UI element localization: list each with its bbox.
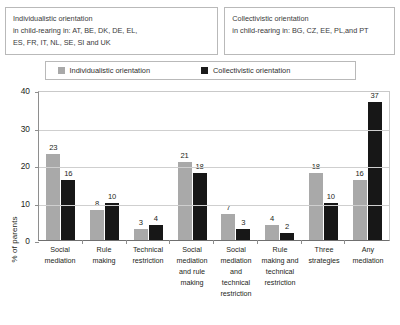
x-axis-label-line: technical xyxy=(215,278,257,289)
x-axis-tick-mark xyxy=(169,240,170,244)
bar-group: 73 xyxy=(214,92,258,240)
bar[interactable]: 16 xyxy=(61,180,75,240)
plot-area: 2316810342118734218101637 xyxy=(38,91,390,241)
x-axis-tick-mark xyxy=(257,240,258,244)
x-axis-label-line: making and xyxy=(259,256,301,267)
bar[interactable]: 3 xyxy=(236,229,250,240)
bar-group: 1637 xyxy=(345,92,389,240)
y-axis-tick-label: 30 xyxy=(8,124,30,134)
bar[interactable]: 7 xyxy=(221,214,235,240)
bar-group: 1810 xyxy=(302,92,346,240)
bar[interactable]: 21 xyxy=(178,162,192,241)
y-axis-ticks: 010203040 xyxy=(8,83,30,303)
x-axis-tick-mark xyxy=(213,240,214,244)
bar-value-label: 21 xyxy=(180,151,188,160)
callout-row: Individualistic orientation in child-rea… xyxy=(0,0,400,55)
x-axis-label: Technicalrestriction xyxy=(126,245,170,299)
legend-swatch-icon xyxy=(58,67,65,74)
bar-value-label: 3 xyxy=(241,218,245,227)
x-axis-label-line: and rule xyxy=(171,267,213,278)
bar-value-label: 18 xyxy=(312,162,320,171)
bar-groups: 2316810342118734218101637 xyxy=(39,92,389,240)
bar[interactable]: 37 xyxy=(368,102,382,241)
x-axis-label-line: Technical xyxy=(127,245,169,256)
grid-line xyxy=(39,130,389,131)
bar-value-label: 18 xyxy=(195,162,203,171)
bar-value-label: 4 xyxy=(270,214,274,223)
bar-value-label: 16 xyxy=(64,169,72,178)
x-axis-label: Rulemaking andtechnicalrestriction xyxy=(258,245,302,299)
bar-value-label: 37 xyxy=(370,91,378,100)
bar-group: 34 xyxy=(127,92,171,240)
bar-value-label: 2 xyxy=(285,222,289,231)
bar[interactable]: 8 xyxy=(90,210,104,240)
x-axis-label-line: Social xyxy=(171,245,213,256)
x-axis-label-line: mediation xyxy=(215,256,257,267)
callout-individualistic: Individualistic orientation in child-rea… xyxy=(5,7,218,55)
x-axis-tick-mark xyxy=(344,240,345,244)
legend-label-individualistic: Individualistic orientation xyxy=(70,66,151,75)
x-axis-label-line: restriction xyxy=(127,256,169,267)
grid-line xyxy=(39,167,389,168)
x-axis-label: Threestrategies xyxy=(302,245,346,299)
x-axis-label: Socialmediation xyxy=(38,245,82,299)
bar-group: 2316 xyxy=(39,92,83,240)
x-axis-label-line: restriction xyxy=(259,278,301,289)
bar-value-label: 10 xyxy=(108,192,116,201)
x-axis-label-line: mediation xyxy=(171,256,213,267)
bar-group: 42 xyxy=(258,92,302,240)
callout-individualistic-line3: ES, FR, IT, NL, SE, SI and UK xyxy=(13,37,211,49)
x-axis-label-line: Rule xyxy=(83,245,125,256)
x-axis-label: Socialmediationandtechnicalrestriction xyxy=(214,245,258,299)
callout-collectivistic: Collectivistic orientation in child-rear… xyxy=(224,7,395,55)
bar[interactable]: 10 xyxy=(105,203,119,241)
x-axis-label-line: Social xyxy=(39,245,81,256)
x-axis-label: Anymediation xyxy=(346,245,390,299)
x-axis-label: Rulemaking xyxy=(82,245,126,299)
legend-label-collectivistic: Collectivistic orientation xyxy=(213,66,290,75)
bar[interactable]: 18 xyxy=(193,173,207,241)
x-axis-label-line: Any xyxy=(347,245,389,256)
grid-line xyxy=(39,205,389,206)
bar[interactable]: 3 xyxy=(134,229,148,240)
callout-individualistic-line2: in child-rearing in: AT, BE, DK, DE, EL, xyxy=(13,25,211,37)
bar-value-label: 23 xyxy=(49,143,57,152)
chart-legend: Individualistic orientation Collectivist… xyxy=(45,61,356,80)
y-axis-tick-label: 0 xyxy=(8,236,30,246)
x-axis-tick-mark xyxy=(126,240,127,244)
legend-item-collectivistic: Collectivistic orientation xyxy=(201,66,290,75)
y-axis-tick-mark xyxy=(35,205,39,206)
x-axis-label-line: strategies xyxy=(303,256,345,267)
bar-chart: % of parents 010203040 23168103421187342… xyxy=(0,83,400,303)
bar-value-label: 16 xyxy=(355,169,363,178)
bar-group: 810 xyxy=(83,92,127,240)
bar-value-label: 10 xyxy=(327,192,335,201)
x-axis-label-line: making xyxy=(83,256,125,267)
bar-value-label: 8 xyxy=(95,199,99,208)
y-axis-tick-mark xyxy=(35,167,39,168)
legend-container: Individualistic orientation Collectivist… xyxy=(0,61,400,80)
bar[interactable]: 4 xyxy=(265,225,279,240)
bar[interactable]: 4 xyxy=(149,225,163,240)
bar-value-label: 4 xyxy=(154,214,158,223)
x-axis-label-line: mediation xyxy=(39,256,81,267)
x-axis-tick-mark xyxy=(301,240,302,244)
x-axis-label-line: and xyxy=(215,267,257,278)
callout-collectivistic-line1: Collectivistic orientation xyxy=(232,13,388,25)
bar[interactable]: 16 xyxy=(353,180,367,240)
y-axis-tick-label: 10 xyxy=(8,199,30,209)
bar[interactable]: 18 xyxy=(309,173,323,241)
x-axis-label-line: Three xyxy=(303,245,345,256)
y-axis-tick-mark xyxy=(35,242,39,243)
y-axis-tick-mark xyxy=(35,130,39,131)
legend-item-individualistic: Individualistic orientation xyxy=(58,66,151,75)
x-axis-label: Socialmediationand rulemaking xyxy=(170,245,214,299)
bar[interactable]: 10 xyxy=(324,203,338,241)
x-axis-label-line: making xyxy=(171,278,213,289)
y-axis-tick-mark xyxy=(35,92,39,93)
x-axis-label-line: mediation xyxy=(347,256,389,267)
bar[interactable]: 2 xyxy=(280,233,294,241)
callout-collectivistic-line2: in child-rearing in: BG, CZ, EE, PL,and … xyxy=(232,25,388,37)
x-axis-label-line: Social xyxy=(215,245,257,256)
x-axis-label-line: Rule xyxy=(259,245,301,256)
